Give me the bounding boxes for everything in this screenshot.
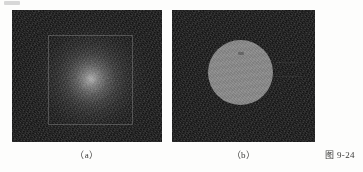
- scan-streak-lower: [272, 76, 302, 77]
- scan-streak-upper: [276, 62, 298, 63]
- square-outline-overlay: [48, 35, 133, 125]
- scan-artifact-speck: [4, 1, 20, 5]
- figure-container: （a） （b） 图 9-24: [0, 0, 363, 172]
- gray-disc-shape: [208, 40, 273, 105]
- figure-panel-a: [12, 10, 162, 142]
- panel-a-caption: （a）: [0, 148, 174, 161]
- panel-b-caption: （b）: [172, 148, 315, 161]
- figure-number-label: 图 9-24: [325, 148, 355, 161]
- figure-panel-b: [172, 10, 315, 142]
- disc-speck-artifact: [238, 52, 244, 55]
